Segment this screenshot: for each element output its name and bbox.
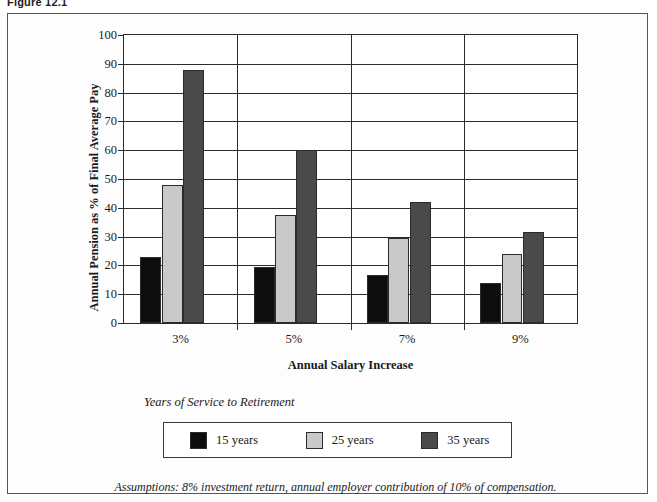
figure-frame: Annual Pension as % of Final Average Pay… — [7, 13, 648, 494]
x-axis-tick-mark — [237, 323, 238, 330]
x-axis-tick-label: 7% — [399, 332, 416, 347]
y-axis-tick-label: 10 — [105, 287, 118, 302]
y-axis-tick-label: 80 — [105, 85, 118, 100]
y-axis-tick-label: 40 — [105, 200, 118, 215]
x-axis-tick-label: 9% — [512, 332, 529, 347]
y-axis-tick-mark — [118, 323, 124, 324]
bar — [140, 257, 161, 323]
bar — [162, 185, 183, 323]
bar — [367, 275, 388, 323]
bar — [480, 283, 501, 323]
legend-swatch-icon — [306, 432, 323, 449]
bar-group — [464, 35, 577, 323]
legend-swatch-icon — [421, 432, 438, 449]
legend-item-label: 35 years — [447, 433, 489, 448]
bar — [183, 70, 204, 323]
legend-item: 35 years — [395, 432, 511, 449]
bar — [410, 202, 431, 323]
y-axis-tick-label: 60 — [105, 143, 118, 158]
bar — [275, 215, 296, 323]
y-axis-tick-label: 90 — [105, 56, 118, 71]
legend-title: Years of Service to Retirement — [144, 395, 294, 410]
bar — [388, 238, 409, 323]
y-axis-tick-label: 0 — [111, 316, 117, 331]
x-axis-tick-mark — [351, 323, 352, 330]
figure-footnote: Assumptions: 8% investment return, annua… — [22, 480, 649, 495]
plot-area: 0102030405060708090100 3%5%7%9% — [123, 34, 578, 324]
x-axis-tick-label: 3% — [172, 332, 189, 347]
chart-legend: 15 years25 years35 years — [163, 422, 512, 458]
bar — [296, 150, 317, 323]
x-axis-title: Annual Salary Increase — [123, 358, 578, 373]
y-axis-tick-label: 70 — [105, 114, 118, 129]
legend-item-label: 25 years — [332, 433, 374, 448]
legend-item: 15 years — [164, 432, 280, 449]
bar-group — [237, 35, 350, 323]
bar-group — [124, 35, 237, 323]
y-axis-title: Annual Pension as % of Final Average Pay — [87, 48, 102, 348]
legend-swatch-icon — [190, 432, 207, 449]
bar-group — [351, 35, 464, 323]
bar — [523, 232, 544, 323]
figure-caption: Figure 12.1 — [7, 0, 67, 8]
y-axis-tick-label: 100 — [98, 28, 117, 43]
bar — [502, 254, 523, 323]
y-axis-tick-label: 50 — [105, 172, 118, 187]
legend-item: 25 years — [280, 432, 396, 449]
legend-item-label: 15 years — [216, 433, 258, 448]
y-axis-tick-label: 20 — [105, 258, 118, 273]
x-axis-tick-mark — [464, 323, 465, 330]
bar — [254, 267, 275, 323]
y-axis-tick-label: 30 — [105, 229, 118, 244]
x-axis-tick-label: 5% — [286, 332, 303, 347]
